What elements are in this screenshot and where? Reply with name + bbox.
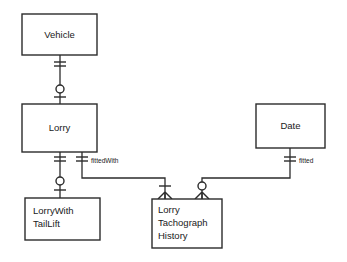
entity-label-vehicle: Vehicle [44,29,75,40]
cardinality-zero-or-many-fitted-lth-end [195,182,209,199]
connector-line-fitted [202,148,290,199]
entity-label-lorry-with-tail-lift-line1: LorryWith [33,205,74,216]
entity-label-lorry: Lorry [49,122,71,133]
entity-lorry-with-tail-lift[interactable]: LorryWith TailLift [25,198,100,240]
entity-date[interactable]: Date [256,104,325,148]
entity-label-lorry-tachograph-history-line3: History [158,230,188,241]
relationship-label-fittedwith: fittedWith [91,157,119,164]
entity-label-lorry-tachograph-history-line1: Lorry [158,204,180,215]
entity-vehicle[interactable]: Vehicle [22,14,97,55]
entity-label-lorry-with-tail-lift-line2: TailLift [33,218,60,229]
entity-lorry[interactable]: Lorry [22,104,97,152]
connector-lorry-tachographhistory[interactable]: fittedWith [76,152,172,199]
er-diagram-svg: fittedWith fitted Vehicle [0,0,347,262]
entity-label-lorry-tachograph-history-line2: Tachograph [158,217,208,228]
er-diagram-canvas: fittedWith fitted Vehicle [0,0,347,262]
entity-label-date: Date [280,120,300,131]
connector-lorry-lorrywithtaillift[interactable] [54,152,66,198]
connector-vehicle-lorry[interactable] [54,55,66,104]
connector-date-tachographhistory[interactable]: fitted [195,148,314,199]
relationship-label-fitted: fitted [299,157,314,164]
entity-lorry-tachograph-history[interactable]: Lorry Tachograph History [152,199,222,248]
